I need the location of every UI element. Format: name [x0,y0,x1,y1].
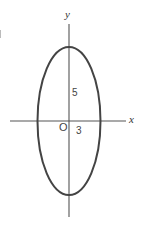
ellipse-diagram [0,0,144,237]
x-axis-label: x [129,114,134,125]
semi-axis-x-label: 3 [76,126,82,136]
semi-axis-y-label: 5 [72,88,78,98]
y-axis-label: y [65,9,70,20]
origin-label: O [59,122,68,133]
